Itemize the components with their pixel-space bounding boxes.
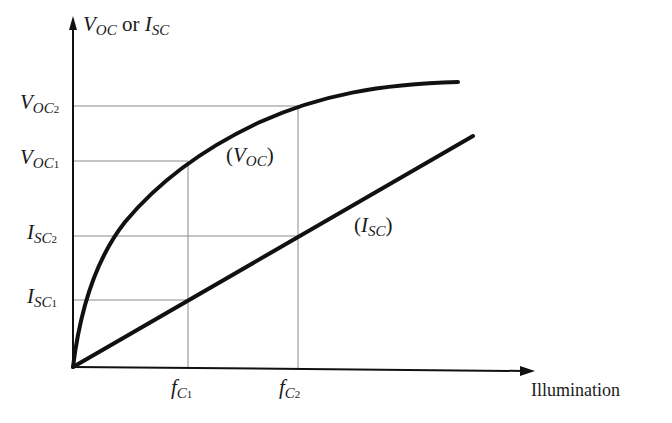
tick-index: 1 [187,388,193,400]
tick-sub: OC [33,100,54,116]
y-title-v-sub: OC [96,22,117,38]
label-base: V [233,143,246,167]
x-axis-arrow-icon [520,366,535,376]
paren-close: ) [386,213,393,237]
tick-base: f [171,375,177,399]
y-title-v: V [83,12,96,36]
label-sub: SC [368,223,386,239]
voc-curve [73,82,458,367]
x-axis-title: Illumination [531,380,620,401]
tick-index: 2 [54,103,60,115]
tick-sub: SC [34,230,52,246]
paren-close: ) [267,143,274,167]
tick-base: V [20,90,33,114]
tick-index: 1 [54,158,60,170]
y-axis-title: VOC or ISC [83,12,169,37]
solar-cell-illumination-diagram: VOC or ISC VOC2 VOC1 ISC2 ISC1 fC1 fC2 I… [0,0,672,423]
tick-sub: C [285,385,295,401]
tick-fc1: fC1 [171,375,192,400]
tick-voc2: VOC2 [20,90,59,115]
isc-line [73,136,473,367]
diagram-canvas [0,0,672,423]
tick-base: I [27,284,34,308]
isc-line-label: (ISC) [354,213,393,238]
tick-sub: SC [34,294,52,310]
tick-base: f [279,375,285,399]
paren-open: ( [226,143,233,167]
paren-open: ( [354,213,361,237]
tick-index: 2 [52,233,58,245]
y-title-or: or [117,12,145,36]
tick-base: I [27,220,34,244]
tick-index: 1 [52,297,58,309]
tick-index: 2 [295,388,301,400]
y-title-i: I [145,12,152,36]
y-axis-arrow-icon [69,16,77,30]
tick-fc2: fC2 [279,375,300,400]
tick-sub: OC [33,155,54,171]
voc-curve-label: (VOC) [226,143,274,168]
label-base: I [361,213,368,237]
tick-isc1: ISC1 [27,284,57,309]
label-sub: OC [246,153,267,169]
tick-isc2: ISC2 [27,220,57,245]
y-title-i-sub: SC [152,22,170,38]
tick-voc1: VOC1 [20,145,59,170]
tick-sub: C [177,385,187,401]
tick-base: V [20,145,33,169]
